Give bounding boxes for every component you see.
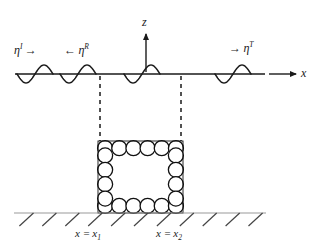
seabed-hatch-0 <box>19 213 33 226</box>
incident-wave-label: ηI → <box>14 43 37 56</box>
seabed-hatch-8 <box>203 213 217 226</box>
seabed-hatch-4 <box>111 213 125 226</box>
boundary-x2-label: x = x2 <box>156 228 182 242</box>
diagram-canvas <box>0 0 319 249</box>
seabed-hatch-1 <box>42 213 56 226</box>
z-axis-label: z <box>142 16 147 28</box>
reflected-arrow-icon: ← <box>64 43 76 57</box>
boundary-x1-label: x = x1 <box>75 228 101 242</box>
sphere-16 <box>168 148 183 163</box>
transmitted-arrow-icon: → <box>229 41 241 55</box>
reflected-wave-label: ← ηR <box>64 43 89 56</box>
sphere-19 <box>168 191 183 206</box>
sphere-12 <box>98 148 113 163</box>
seabed-hatch-10 <box>249 213 263 226</box>
wave-scattering-diagram: ηI → ← ηR → ηT z x x = x1 x = x2 <box>0 0 319 249</box>
boundary-x1-subscript: 1 <box>97 233 101 242</box>
transmitted-wave-label: → ηT <box>229 41 254 54</box>
boundary-x2-subscript: 2 <box>178 233 182 242</box>
reflected-eta-superscript: R <box>84 42 89 51</box>
boundary-dashed-lines <box>100 76 181 141</box>
sphere-10 <box>154 198 169 213</box>
transmitted-eta-superscript: T <box>249 40 253 49</box>
boundary-x1-prefix: x = <box>75 227 90 239</box>
seabed-hatch-2 <box>65 213 79 226</box>
sphere-18 <box>168 177 183 192</box>
sphere-9 <box>140 198 155 213</box>
seabed-hatch-3 <box>88 213 102 226</box>
seabed-hatch-5 <box>134 213 148 226</box>
sphere-13 <box>98 162 113 177</box>
sphere-7 <box>112 198 127 213</box>
sphere-3 <box>140 141 155 156</box>
sphere-15 <box>98 191 113 206</box>
sphere-14 <box>98 177 113 192</box>
boundary-x2-prefix: x = <box>156 227 171 239</box>
x-axis-label: x <box>301 67 306 79</box>
sphere-8 <box>126 198 141 213</box>
seabed-hatching <box>14 213 266 226</box>
incident-arrow-icon: → <box>25 43 37 57</box>
sphere-17 <box>168 162 183 177</box>
sphere-2 <box>126 141 141 156</box>
sphere-4 <box>154 141 169 156</box>
seabed-hatch-9 <box>226 213 240 226</box>
incident-eta-superscript: I <box>20 42 23 51</box>
seabed-hatch-7 <box>180 213 194 226</box>
porous-sphere-array <box>98 141 184 214</box>
sphere-1 <box>112 141 127 156</box>
seabed-hatch-6 <box>157 213 171 226</box>
